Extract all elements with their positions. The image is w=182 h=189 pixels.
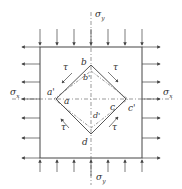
point-a-label: a [64,97,69,106]
tau-top-left-label: τ [63,63,68,72]
point-b-prime-label: b' [83,74,90,82]
point-c-prime-label: c' [128,104,136,113]
sigma-y-top-label: σy [95,10,105,21]
point-c-label: c [110,103,115,112]
tau-bottom-left-label: τ [61,123,66,132]
sigma-y-bottom-label: σy [96,173,106,184]
stress-element-diagram [0,0,182,189]
point-d-prime-label: d' [93,112,100,120]
tau-top-right-label: τ [113,63,118,72]
point-b-label: b [81,58,87,67]
sigma-x-left-label: σx [10,88,20,99]
sigma-x-right-arrows [142,47,160,158]
sigma-x-left-arrows [22,47,40,158]
sigma-y-top-arrows [40,29,142,45]
point-d-label: d [82,138,88,147]
point-a-prime-label: a' [47,88,55,97]
tau-bottom-right-label: τ [112,123,117,132]
sigma-y-bottom-arrows [40,160,142,176]
sigma-x-right-label: σx [163,88,173,99]
